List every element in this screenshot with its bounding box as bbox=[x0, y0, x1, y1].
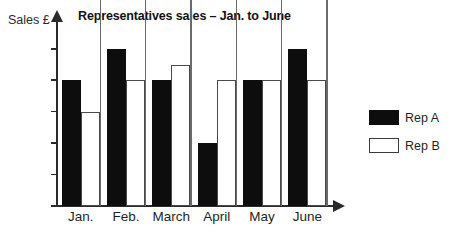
x-tick-label: May bbox=[239, 209, 284, 224]
bar-rep-b-feb bbox=[126, 80, 145, 206]
bar-rep-b-jan bbox=[81, 112, 100, 206]
legend-swatch-rep-a bbox=[369, 110, 399, 125]
bar-group bbox=[285, 0, 330, 206]
legend-label-rep-a: Rep A bbox=[405, 111, 439, 125]
bar-rep-a-june bbox=[288, 49, 307, 206]
y-tick-mark bbox=[51, 79, 58, 81]
y-tick-mark bbox=[51, 142, 58, 144]
bar-group bbox=[194, 0, 239, 206]
bar-group bbox=[103, 0, 148, 206]
bar-rep-b-april bbox=[217, 80, 236, 206]
legend: Rep A Rep B bbox=[369, 110, 440, 166]
legend-item-rep-b: Rep B bbox=[369, 138, 440, 153]
group-divider bbox=[190, 0, 191, 206]
y-tick-mark bbox=[51, 48, 58, 50]
legend-label-rep-b: Rep B bbox=[405, 139, 440, 153]
plot-area bbox=[58, 0, 330, 206]
bar-rep-a-feb bbox=[107, 49, 126, 206]
bar-group bbox=[58, 0, 103, 206]
bar-rep-a-march bbox=[152, 80, 171, 206]
y-tick-mark bbox=[51, 111, 58, 113]
y-tick-mark bbox=[51, 174, 58, 176]
x-tick-label: Feb. bbox=[103, 209, 148, 224]
bar-rep-a-may bbox=[243, 80, 262, 206]
legend-swatch-rep-b bbox=[369, 138, 399, 153]
group-divider bbox=[100, 0, 101, 206]
bar-rep-b-march bbox=[171, 65, 190, 206]
bar-chart: Sales £ Representatives sales – Jan. to … bbox=[0, 0, 452, 240]
x-tick-label: April bbox=[194, 209, 239, 224]
x-tick-label: Jan. bbox=[58, 209, 103, 224]
x-axis-arrow-icon bbox=[333, 200, 345, 212]
bar-group bbox=[149, 0, 194, 206]
bar-rep-b-may bbox=[262, 80, 281, 206]
y-axis-label: Sales £ bbox=[8, 13, 50, 27]
group-divider bbox=[236, 0, 237, 206]
x-tick-label: March bbox=[149, 209, 194, 224]
x-tick-label: June bbox=[285, 209, 330, 224]
bar-rep-a-jan bbox=[62, 80, 81, 206]
y-tick-mark bbox=[51, 205, 58, 207]
bar-rep-a-april bbox=[198, 143, 217, 206]
group-divider bbox=[281, 0, 282, 206]
group-divider bbox=[326, 0, 327, 206]
group-divider bbox=[145, 0, 146, 206]
bar-group bbox=[239, 0, 284, 206]
legend-item-rep-a: Rep A bbox=[369, 110, 440, 125]
bar-rep-b-june bbox=[307, 80, 326, 206]
